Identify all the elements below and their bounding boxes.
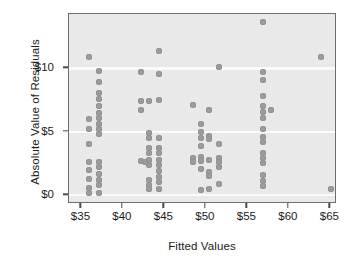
data-point <box>198 143 204 149</box>
data-point <box>190 159 196 165</box>
data-point <box>146 135 152 141</box>
data-point <box>156 71 162 77</box>
data-point <box>156 135 162 141</box>
data-point <box>146 98 152 104</box>
data-point <box>156 168 162 174</box>
x-axis-tick-label: $55 <box>237 210 256 222</box>
data-point <box>260 109 266 115</box>
data-point <box>206 186 212 192</box>
data-point <box>138 107 144 113</box>
data-point <box>260 115 266 121</box>
x-axis-tick-label: $60 <box>278 210 297 222</box>
data-point <box>156 186 162 192</box>
x-axis-tick-mark <box>204 203 205 208</box>
y-axis-tick-label: $10 <box>35 61 54 73</box>
data-point <box>96 164 102 170</box>
data-point <box>198 187 204 193</box>
data-point <box>96 131 102 137</box>
x-axis-tick-mark <box>163 203 164 208</box>
data-point <box>206 107 212 113</box>
data-point <box>96 90 102 96</box>
y-axis-tick-mark <box>63 130 68 131</box>
data-point <box>198 158 204 164</box>
data-point <box>96 182 102 188</box>
y-axis-tick-label: $5 <box>41 125 54 137</box>
data-point <box>96 103 102 109</box>
data-point <box>328 186 334 192</box>
data-point <box>260 77 266 83</box>
data-point <box>142 159 148 165</box>
data-point <box>260 69 266 75</box>
x-axis-tick-label: $65 <box>320 210 339 222</box>
data-point <box>96 190 102 196</box>
x-axis-tick-label: $40 <box>112 210 131 222</box>
data-point <box>138 98 144 104</box>
data-point <box>216 181 222 187</box>
data-point <box>216 141 222 147</box>
data-point <box>198 135 204 141</box>
data-point <box>138 69 144 75</box>
scatter-plot-figure: Absolute Value of Residuals Fitted Value… <box>0 0 349 271</box>
data-point <box>260 19 266 25</box>
data-point <box>96 171 102 177</box>
data-point <box>86 176 92 182</box>
data-point <box>156 150 162 156</box>
data-point <box>96 79 102 85</box>
data-point <box>86 54 92 60</box>
data-point <box>206 173 212 179</box>
data-point <box>86 159 92 165</box>
data-point <box>260 183 266 189</box>
y-axis-tick-mark <box>63 67 68 68</box>
x-axis-tick-label: $50 <box>195 210 214 222</box>
data-point <box>86 167 92 173</box>
x-axis-tick-mark <box>246 203 247 208</box>
data-point <box>260 139 266 145</box>
data-point <box>146 186 152 192</box>
plot-area <box>68 13 336 203</box>
data-point <box>206 136 212 142</box>
x-axis-tick-mark <box>329 203 330 208</box>
x-axis-tick-mark <box>121 203 122 208</box>
data-point <box>156 179 162 185</box>
data-point <box>216 164 222 170</box>
data-point <box>96 68 102 74</box>
data-point <box>318 54 324 60</box>
data-point <box>198 166 204 172</box>
data-point <box>156 162 162 168</box>
data-point <box>198 129 204 135</box>
data-point <box>190 102 196 108</box>
data-point <box>268 107 274 113</box>
data-point <box>96 115 102 121</box>
data-point <box>198 121 204 127</box>
x-axis-tick-label: $45 <box>154 210 173 222</box>
x-axis-tick-label: $35 <box>71 210 90 222</box>
data-point <box>260 172 266 178</box>
x-axis-title: Fitted Values <box>68 240 336 252</box>
data-point <box>146 150 152 156</box>
data-point <box>206 157 212 163</box>
data-point <box>156 48 162 54</box>
x-axis-tick-mark <box>80 203 81 208</box>
gridline-y-0 <box>69 194 335 196</box>
gridline-y-2 <box>69 67 335 69</box>
data-point <box>260 93 266 99</box>
data-point <box>260 160 266 166</box>
data-point <box>86 116 92 122</box>
y-axis-tick-mark <box>63 193 68 194</box>
data-point <box>156 97 162 103</box>
x-axis-tick-mark <box>287 203 288 208</box>
data-point <box>86 141 92 147</box>
data-point <box>96 96 102 102</box>
y-axis-tick-label: $0 <box>41 188 54 200</box>
